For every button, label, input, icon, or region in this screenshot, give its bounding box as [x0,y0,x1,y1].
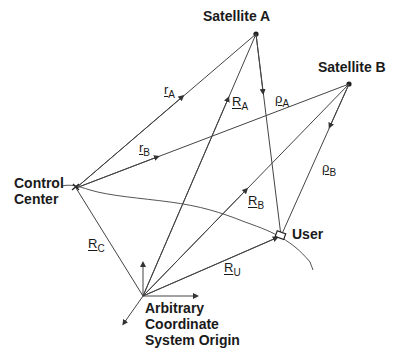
vector-R-c [76,188,143,296]
label-R-u: RU [224,260,241,278]
r-a-arrow [76,97,182,188]
label-satellite-a: Satellite A [203,8,270,24]
label-rho-a: ρA [275,91,289,109]
label-R-c: RC [88,236,105,254]
label-R-b: RB [248,193,264,211]
R-u-arrow [143,238,276,296]
label-rho-b: ρB [322,160,336,178]
label-r-b: rB [139,140,150,158]
axis-y [124,296,143,323]
R-a-arrow [143,99,228,296]
label-satellite-b: Satellite B [318,59,386,75]
label-origin: Arbitrary Coordinate System Origin [145,300,240,348]
label-r-a: rA [164,82,175,100]
r-b-arrow [76,157,157,188]
label-user: User [292,226,323,242]
label-control-center: Control Center [14,175,64,207]
earth-surface-curve [62,185,313,270]
label-R-a: RA [232,94,248,112]
rho-a-arrow [256,34,263,92]
